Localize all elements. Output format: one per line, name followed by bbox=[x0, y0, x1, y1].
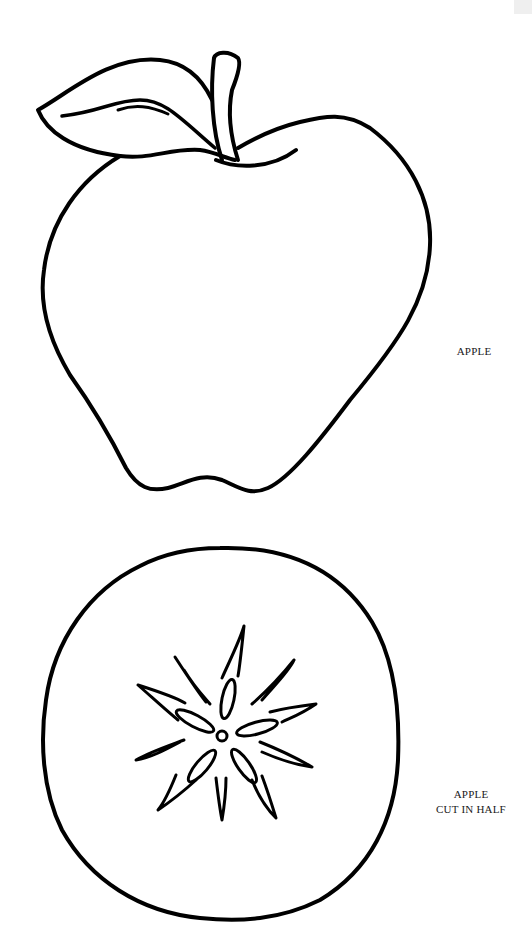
apple-body-outline bbox=[43, 117, 431, 492]
leaf-outline bbox=[38, 60, 235, 160]
seed bbox=[235, 717, 279, 739]
cross-section-drawing bbox=[43, 548, 398, 920]
cross-section-label-line2: CUT IN HALF bbox=[410, 802, 532, 817]
spike bbox=[270, 704, 316, 722]
leaf-vein-inner bbox=[118, 107, 168, 114]
spike bbox=[216, 778, 226, 820]
seed bbox=[185, 747, 220, 785]
cross-section-label-line1: APPLE bbox=[410, 787, 532, 802]
star-spikes bbox=[136, 626, 316, 820]
apple-label: APPLE bbox=[434, 344, 514, 359]
seed bbox=[174, 706, 217, 736]
core-center bbox=[217, 731, 227, 741]
cross-section-rim bbox=[43, 548, 398, 920]
spike bbox=[158, 775, 196, 810]
spike bbox=[222, 626, 244, 678]
whole-apple-drawing bbox=[38, 53, 430, 492]
seed bbox=[228, 746, 261, 786]
spike bbox=[136, 740, 184, 760]
spike bbox=[175, 657, 210, 704]
cross-section-label: APPLE CUT IN HALF bbox=[410, 787, 532, 817]
spike bbox=[252, 660, 294, 704]
stem-outline bbox=[212, 53, 239, 160]
seed bbox=[218, 678, 238, 720]
spike bbox=[260, 742, 312, 767]
